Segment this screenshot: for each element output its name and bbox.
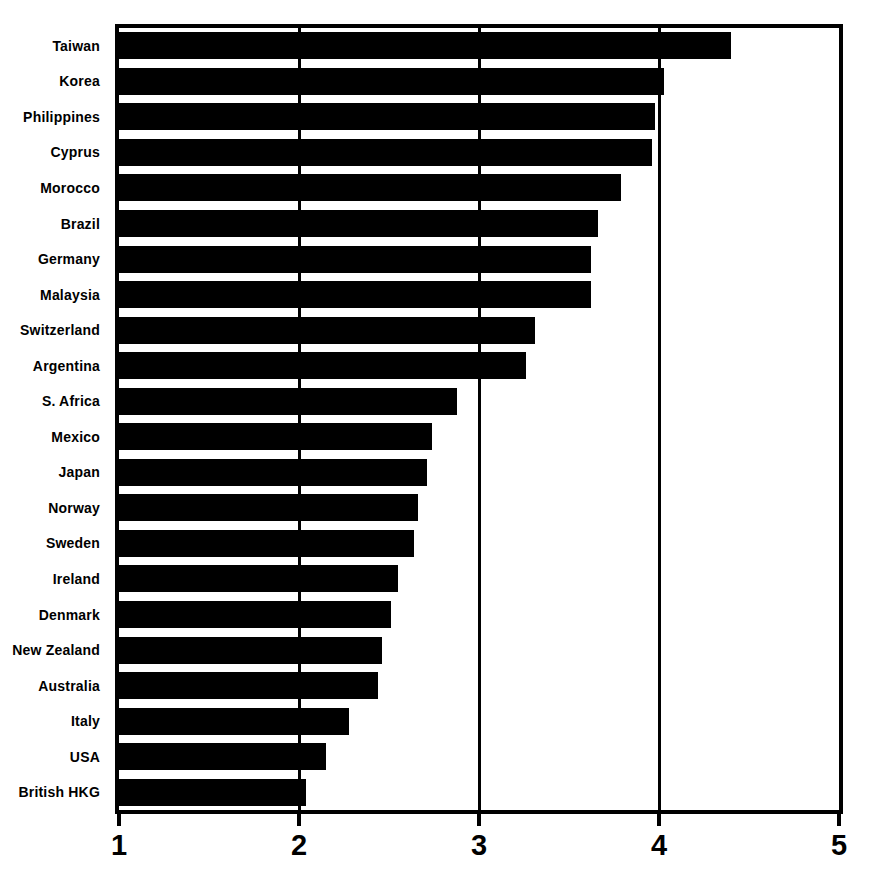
x-tick-label: 2 xyxy=(291,830,307,862)
x-tick-label: 5 xyxy=(831,830,847,862)
category-label: Italy xyxy=(0,703,107,739)
bar xyxy=(119,174,621,201)
bar-rows xyxy=(119,28,839,810)
category-label: Korea xyxy=(0,64,107,100)
bar-row xyxy=(119,526,839,562)
bar xyxy=(119,139,652,166)
category-label: Morocco xyxy=(0,170,107,206)
bar-row xyxy=(119,64,839,100)
bar xyxy=(119,317,535,344)
category-label: Argentina xyxy=(0,348,107,384)
bar xyxy=(119,246,591,273)
bar xyxy=(119,388,457,415)
bar-row xyxy=(119,206,839,242)
bar-row xyxy=(119,490,839,526)
bar xyxy=(119,637,382,664)
bar-row xyxy=(119,419,839,455)
x-tick-mark xyxy=(117,814,121,826)
category-label: USA xyxy=(0,739,107,775)
category-label: Sweden xyxy=(0,526,107,562)
bar xyxy=(119,530,414,557)
bar-row xyxy=(119,348,839,384)
x-tick-mark xyxy=(837,814,841,826)
bar-row xyxy=(119,135,839,171)
category-label: Norway xyxy=(0,490,107,526)
category-label: Japan xyxy=(0,455,107,491)
bar-row xyxy=(119,312,839,348)
bar-chart-figure: TaiwanKoreaPhilippinesCyprusMoroccoBrazi… xyxy=(0,0,874,888)
bar-row xyxy=(119,28,839,64)
category-label: New Zealand xyxy=(0,632,107,668)
category-label: Denmark xyxy=(0,597,107,633)
bar-row xyxy=(119,774,839,810)
bar xyxy=(119,565,398,592)
bar-row xyxy=(119,561,839,597)
x-tick-mark xyxy=(477,814,481,826)
category-label: Philippines xyxy=(0,99,107,135)
y-labels: TaiwanKoreaPhilippinesCyprusMoroccoBrazi… xyxy=(0,28,107,810)
x-axis: 12345 xyxy=(119,814,839,884)
category-label: Cyprus xyxy=(0,135,107,171)
plot-area xyxy=(115,24,843,814)
bar xyxy=(119,459,427,486)
bar xyxy=(119,423,432,450)
bar-row xyxy=(119,597,839,633)
category-label: Taiwan xyxy=(0,28,107,64)
bar-row xyxy=(119,99,839,135)
bar xyxy=(119,68,664,95)
x-tick-mark xyxy=(657,814,661,826)
bar-row xyxy=(119,277,839,313)
x-tick-label: 4 xyxy=(651,830,667,862)
bar xyxy=(119,601,391,628)
bar-row xyxy=(119,739,839,775)
category-label: Switzerland xyxy=(0,312,107,348)
category-label: British HKG xyxy=(0,774,107,810)
bar-row xyxy=(119,241,839,277)
bar-row xyxy=(119,668,839,704)
bar xyxy=(119,352,526,379)
x-tick-mark xyxy=(297,814,301,826)
category-label: Brazil xyxy=(0,206,107,242)
bar xyxy=(119,281,591,308)
bar xyxy=(119,32,731,59)
bar-row xyxy=(119,383,839,419)
bar xyxy=(119,103,655,130)
category-label: Ireland xyxy=(0,561,107,597)
category-label: Malaysia xyxy=(0,277,107,313)
bar xyxy=(119,779,306,806)
category-label: S. Africa xyxy=(0,383,107,419)
bar xyxy=(119,672,378,699)
bar xyxy=(119,743,326,770)
bar xyxy=(119,708,349,735)
category-label: Germany xyxy=(0,241,107,277)
bar-row xyxy=(119,632,839,668)
x-tick-label: 1 xyxy=(111,830,127,862)
category-label: Mexico xyxy=(0,419,107,455)
x-tick-label: 3 xyxy=(471,830,487,862)
bar-row xyxy=(119,703,839,739)
bar-row xyxy=(119,170,839,206)
bar-row xyxy=(119,455,839,491)
category-label: Australia xyxy=(0,668,107,704)
bar xyxy=(119,210,598,237)
bar xyxy=(119,494,418,521)
